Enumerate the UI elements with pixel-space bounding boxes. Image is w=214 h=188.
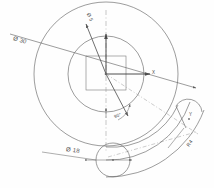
axis-x-label: X [152, 70, 155, 75]
radius-leader [168, 128, 184, 148]
slot-arc-inner [106, 105, 178, 147]
lobe-center-point [188, 118, 190, 120]
right-lobe-edge [176, 106, 186, 128]
origin-point [105, 73, 108, 76]
drawing-svg [0, 0, 214, 188]
slot-end-circle-bottom [96, 160, 130, 177]
bolt-circle-leader [86, 24, 106, 74]
axis-y-label: Y [189, 112, 192, 117]
slot-end-center-point [112, 159, 114, 161]
radius-construction-line [106, 74, 198, 134]
outer-diameter-dimension-line [10, 34, 196, 88]
technical-drawing-canvas: Ø 30 Ø 5 Ø 18 90° R4 X Y [0, 0, 214, 188]
angle-leader [106, 74, 128, 116]
slot-end-diameter-leader [42, 152, 96, 160]
slot-arc-middle [106, 102, 190, 160]
